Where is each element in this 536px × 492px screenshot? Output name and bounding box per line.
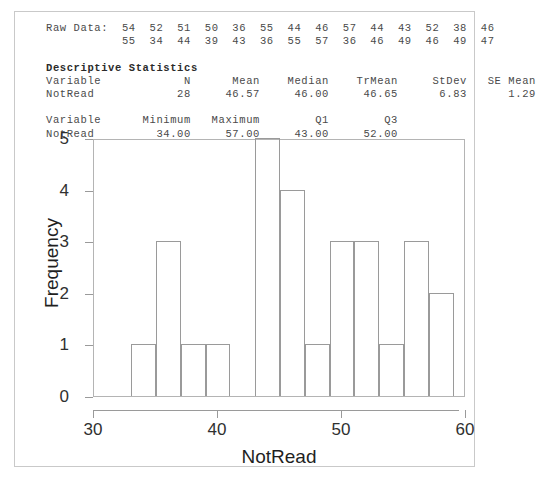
y-axis-title: Frequency	[41, 183, 63, 343]
histogram-bar	[379, 344, 404, 396]
histogram-bar	[280, 190, 305, 396]
y-axis-tick-label: 1	[41, 345, 81, 346]
y-axis-tick	[85, 294, 93, 295]
histogram-bar	[305, 344, 330, 396]
x-axis-tick	[341, 410, 342, 418]
x-axis-tick-label: 50	[311, 421, 371, 438]
histogram-bar	[181, 344, 206, 396]
x-axis-tick-label: 30	[63, 421, 123, 438]
y-axis-tick-label: 0	[41, 397, 81, 398]
y-axis-tick	[85, 397, 93, 398]
raw-data-values-row-1: 54 52 51 50 36 55 44 46 57 44 43 52 38 4…	[122, 22, 495, 34]
output-page: Raw Data: 54 52 51 50 36 55 44 46 57 44 …	[14, 11, 475, 467]
y-axis-tick-label: 5	[41, 139, 81, 140]
histogram-bar	[354, 241, 379, 396]
descriptive-statistics-heading: Descriptive Statistics	[46, 62, 536, 75]
raw-data-line-2: 55 34 44 39 43 36 55 57 36 46 49 46 49 4…	[46, 35, 536, 48]
y-axis-tick	[85, 242, 93, 243]
histogram-bar	[404, 241, 429, 396]
x-axis-title: NotRead	[93, 446, 465, 468]
y-axis-tick-label: 2	[41, 294, 81, 295]
raw-data-label: Raw Data:	[46, 22, 108, 34]
histogram-chart: Frequency 012345 30405060 NotRead	[15, 122, 474, 467]
raw-data-line-1: Raw Data: 54 52 51 50 36 55 44 46 57 44 …	[46, 22, 536, 35]
histogram-bar	[131, 344, 156, 396]
histogram-bar	[255, 138, 280, 396]
raw-data-values-row-2: 55 34 44 39 43 36 55 57 36 46 49 46 49 4…	[122, 35, 495, 47]
y-axis-tick	[85, 345, 93, 346]
histogram-bar	[156, 241, 181, 396]
x-axis-tick-label: 60	[435, 421, 495, 438]
histogram-bar	[429, 293, 454, 396]
x-axis-line	[93, 410, 459, 411]
y-axis-tick	[85, 191, 93, 192]
x-axis-tick	[465, 410, 466, 418]
histogram-bar	[330, 241, 355, 396]
stats-table-1-row: NotRead 28 46.57 46.00 46.65 6.83 1.29	[46, 88, 536, 101]
plot-frame	[93, 139, 465, 397]
histogram-bar	[206, 344, 231, 396]
y-axis-tick-label: 4	[41, 191, 81, 192]
y-axis-tick-label: 3	[41, 242, 81, 243]
x-axis-tick	[217, 410, 218, 418]
text-spacer-1	[46, 48, 536, 61]
x-axis-tick	[93, 410, 94, 418]
x-axis-tick-label: 40	[187, 421, 247, 438]
text-spacer-2	[46, 101, 536, 114]
y-axis-tick	[85, 139, 93, 140]
y-axis-line	[93, 139, 94, 397]
histogram-bars	[94, 140, 464, 396]
stats-table-1-header: Variable N Mean Median TrMean StDev SE M…	[46, 75, 536, 88]
